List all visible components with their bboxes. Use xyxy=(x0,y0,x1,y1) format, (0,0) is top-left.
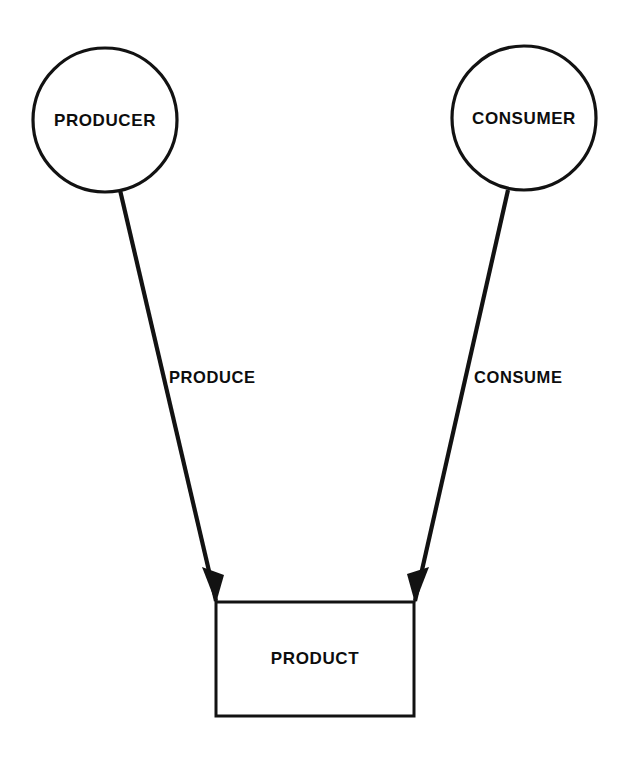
edge-produce[interactable]: PRODUCE xyxy=(120,190,256,603)
producer-label: PRODUCER xyxy=(54,111,156,130)
consumer-label: CONSUMER xyxy=(472,109,576,128)
produce-edge-line xyxy=(120,190,216,601)
node-consumer[interactable]: CONSUMER xyxy=(452,46,596,190)
produce-arrowhead-icon xyxy=(202,567,224,603)
produce-edge-label: PRODUCE xyxy=(169,368,256,386)
node-producer[interactable]: PRODUCER xyxy=(33,48,177,192)
consume-edge-line xyxy=(415,190,508,601)
diagram-svg: PRODUCE CONSUME PRODUCER CONSUMER PRODUC… xyxy=(0,0,622,758)
product-label: PRODUCT xyxy=(271,649,359,668)
consume-arrowhead-icon xyxy=(407,567,429,603)
consume-edge-label: CONSUME xyxy=(474,368,563,386)
edge-consume[interactable]: CONSUME xyxy=(407,190,563,603)
diagram-canvas: PRODUCE CONSUME PRODUCER CONSUMER PRODUC… xyxy=(0,0,622,758)
node-product[interactable]: PRODUCT xyxy=(216,602,414,716)
